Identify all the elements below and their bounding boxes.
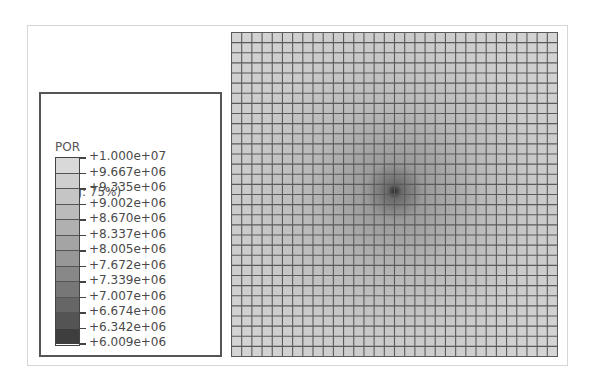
- legend-tick: [79, 204, 86, 206]
- legend-tick: [79, 297, 86, 299]
- legend-tick: [79, 188, 86, 190]
- legend-band: [56, 298, 79, 314]
- legend-band: [56, 313, 79, 329]
- legend-band: [56, 267, 79, 283]
- legend-band: [56, 251, 79, 267]
- legend-tick: [79, 235, 86, 237]
- legend-value: +1.000e+07: [89, 150, 166, 162]
- contour-legend: POR (Avg: 75%) +1.000e+07+9.667e+06+9.33…: [39, 92, 222, 357]
- legend-value: +8.337e+06: [89, 228, 166, 240]
- legend-tick: [79, 281, 86, 283]
- legend-value: +9.335e+06: [89, 181, 166, 193]
- legend-value: +6.009e+06: [89, 336, 166, 348]
- legend-value: +8.005e+06: [89, 243, 166, 255]
- legend-tick: [79, 250, 86, 252]
- legend-tick: [79, 173, 86, 175]
- legend-value: +8.670e+06: [89, 212, 166, 224]
- legend-tick: [79, 219, 86, 221]
- legend-value: +6.342e+06: [89, 321, 166, 333]
- mesh-contour-plot[interactable]: [231, 32, 558, 357]
- legend-tick: [79, 157, 86, 159]
- legend-band: [56, 236, 79, 252]
- legend-band: [56, 205, 79, 221]
- legend-band: [56, 220, 79, 236]
- legend-value: +9.667e+06: [89, 166, 166, 178]
- mesh-svg: [231, 32, 558, 357]
- legend-band: [56, 158, 79, 174]
- legend-tick: [79, 312, 86, 314]
- legend-band: [56, 329, 79, 345]
- legend-value: +7.339e+06: [89, 274, 166, 286]
- legend-value: +6.674e+06: [89, 305, 166, 317]
- legend-tick: [79, 266, 86, 268]
- legend-band: [56, 282, 79, 298]
- legend-value: +9.002e+06: [89, 197, 166, 209]
- legend-value: +7.672e+06: [89, 259, 166, 271]
- legend-colorbar: [55, 157, 80, 346]
- legend-value: +7.007e+06: [89, 290, 166, 302]
- legend-tick: [79, 328, 86, 330]
- legend-tick: [79, 343, 86, 345]
- legend-band: [56, 174, 79, 190]
- legend-band: [56, 189, 79, 205]
